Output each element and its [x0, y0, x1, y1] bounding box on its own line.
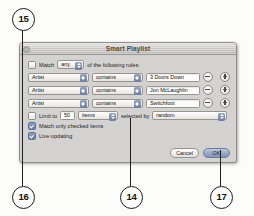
ok-button[interactable]: OK — [203, 148, 230, 158]
cancel-button[interactable]: Cancel — [170, 148, 199, 158]
rule-operator-select[interactable]: contains — [92, 86, 143, 95]
callout-14-leader — [130, 118, 131, 186]
limit-label: Limit to — [39, 112, 57, 120]
chevron-updown-icon — [134, 74, 141, 82]
callout-17: 17 — [210, 186, 233, 209]
chevron-updown-icon — [80, 74, 87, 82]
rule-field-select[interactable]: Artist — [28, 86, 89, 95]
selected-by-select[interactable]: random — [152, 111, 227, 120]
match-enable-checkbox[interactable] — [28, 61, 36, 69]
limit-unit-select[interactable]: items — [78, 111, 118, 120]
limit-enable-checkbox[interactable] — [28, 112, 36, 120]
chevron-updown-icon — [218, 113, 225, 121]
dialog-title: Smart Playlist — [20, 43, 236, 54]
match-only-checked-checkbox[interactable] — [28, 122, 36, 130]
match-row: Match any of the following rules: — [28, 60, 230, 69]
match-only-checked-label: Match only checked items — [39, 122, 103, 130]
add-rule-button[interactable] — [220, 85, 230, 95]
live-updating-checkbox[interactable] — [28, 132, 36, 140]
callout-15: 15 — [12, 8, 35, 31]
rules-list: Artist contains 3 Doors Down — [28, 72, 230, 108]
rule-operator-value: contains — [93, 99, 116, 108]
live-updating-label: Live updating — [39, 132, 72, 140]
rule-operator-value: contains — [93, 86, 116, 95]
rule-value-input[interactable]: Switchfoot — [146, 99, 200, 108]
limit-row: Limit to 50 items selected by random — [28, 111, 230, 120]
chevron-updown-icon — [75, 62, 82, 70]
limit-number-value: 50 — [61, 111, 70, 120]
chevron-updown-icon — [134, 87, 141, 95]
add-rule-button[interactable] — [220, 98, 230, 108]
dialog-titlebar[interactable]: Smart Playlist — [20, 43, 236, 55]
dialog-content: Match any of the following rules: Artist — [20, 55, 236, 162]
rule-row: Artist contains Jon McLaughlin — [28, 85, 230, 95]
chevron-updown-icon — [80, 87, 87, 95]
callout-17-leader — [220, 150, 221, 186]
remove-rule-button[interactable] — [203, 85, 213, 95]
rule-operator-select[interactable]: contains — [92, 73, 143, 82]
rule-value-text: Jon McLaughlin — [147, 86, 188, 95]
rule-field-value: Artist — [29, 99, 44, 108]
match-label: Match — [39, 61, 54, 69]
rule-value-text: Switchfoot — [147, 99, 175, 108]
match-type-value: any — [58, 60, 70, 69]
match-type-select[interactable]: any — [57, 60, 84, 69]
rule-field-value: Artist — [29, 73, 44, 82]
rule-value-input[interactable]: Jon McLaughlin — [146, 86, 200, 95]
rule-operator-select[interactable]: contains — [92, 99, 143, 108]
rule-row: Artist contains Switchfoot — [28, 98, 230, 108]
match-suffix-label: of the following rules: — [87, 61, 140, 69]
rule-operator-value: contains — [93, 73, 116, 82]
smart-playlist-dialog: Smart Playlist Match any of the followin… — [19, 42, 237, 163]
chevron-updown-icon — [80, 100, 87, 108]
rule-row: Artist contains 3 Doors Down — [28, 72, 230, 82]
rule-field-select[interactable]: Artist — [28, 99, 89, 108]
callout-16: 16 — [12, 186, 35, 209]
rule-field-select[interactable]: Artist — [28, 73, 89, 82]
callout-16-leader — [22, 147, 23, 186]
selected-by-label: selected by — [121, 112, 149, 120]
chevron-updown-icon — [134, 100, 141, 108]
rule-value-text: 3 Doors Down — [147, 73, 184, 82]
rule-value-input[interactable]: 3 Doors Down — [146, 73, 200, 82]
match-only-checked-row[interactable]: Match only checked items — [28, 122, 230, 130]
limit-number-input[interactable]: 50 — [60, 111, 75, 120]
live-updating-row[interactable]: Live updating — [28, 132, 230, 140]
figure-page: 15 16 14 17 Smart Playlist Match any — [0, 0, 254, 216]
chevron-updown-icon — [109, 113, 116, 121]
selected-by-value: random — [153, 111, 174, 120]
callout-15-leader-extension — [22, 42, 23, 162]
remove-rule-button[interactable] — [203, 98, 213, 108]
callout-14: 14 — [120, 186, 143, 209]
rule-field-value: Artist — [29, 86, 44, 95]
remove-rule-button[interactable] — [203, 72, 213, 82]
add-rule-button[interactable] — [220, 72, 230, 82]
limit-unit-value: items — [79, 111, 95, 120]
